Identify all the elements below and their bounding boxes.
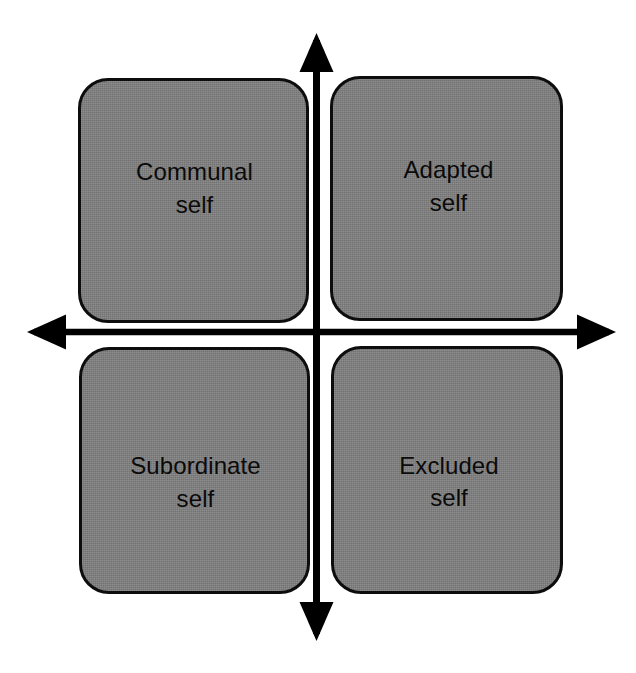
quadrant-diagram: Communal self Adapted self Subordinate s… <box>0 0 636 673</box>
axis-arrowhead-right-icon <box>577 315 616 350</box>
quadrant-label-excluded-self: Excluded self <box>399 450 499 514</box>
quadrant-adapted-self: Adapted self <box>330 76 563 321</box>
quadrant-excluded-self: Excluded self <box>331 346 563 594</box>
axis-arrowhead-left-icon <box>27 315 66 350</box>
quadrant-label-communal-self: Communal self <box>136 156 253 220</box>
quadrant-label-subordinate-self: Subordinate self <box>130 450 261 514</box>
quadrant-communal-self: Communal self <box>78 78 309 323</box>
quadrant-subordinate-self: Subordinate self <box>79 347 310 594</box>
quadrant-label-adapted-self: Adapted self <box>403 154 493 218</box>
axis-arrowhead-up-icon <box>300 33 334 72</box>
axis-arrowhead-down-icon <box>300 602 334 641</box>
